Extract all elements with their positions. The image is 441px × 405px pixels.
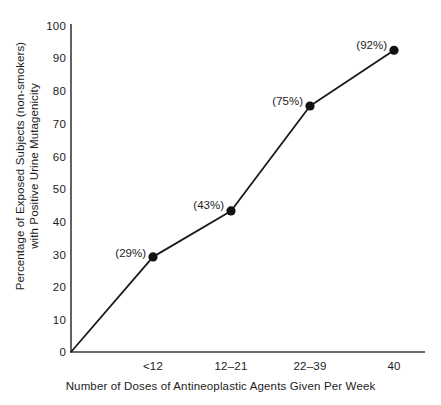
data-point-marker[interactable] — [389, 46, 398, 55]
data-point-label-92: (92%) — [356, 39, 387, 51]
data-series-group — [71, 46, 399, 352]
data-point-label-29: (29%) — [115, 247, 146, 259]
series-line — [71, 50, 394, 352]
y-axis-title-line1: Percentage of Exposed Subjects (non-smok… — [14, 42, 26, 291]
y-tick-label-10: 10 — [40, 314, 66, 326]
y-tick-label-0: 0 — [40, 346, 66, 358]
data-point-label-43: (43%) — [193, 199, 224, 211]
x-tick-label-lt12: <12 — [143, 360, 163, 372]
y-tick-label-60: 60 — [40, 151, 66, 163]
x-tick-label-22-39: 22–39 — [294, 360, 327, 372]
y-tick-label-80: 80 — [40, 85, 66, 97]
y-axis-title-line2: with Positive Urine Mutagenicity — [27, 41, 41, 291]
data-point-label-75: (75%) — [272, 95, 303, 107]
data-point-marker[interactable] — [148, 252, 157, 261]
x-tick-label-12-21: 12–21 — [215, 360, 248, 372]
x-tick-label-40: 40 — [387, 360, 400, 372]
y-axis-title: Percentage of Exposed Subjects (non-smok… — [13, 41, 41, 291]
y-tick-label-100: 100 — [40, 20, 66, 32]
y-tick-label-50: 50 — [40, 183, 66, 195]
chart-container: 100 90 80 70 60 50 40 30 20 10 0 <12 12–… — [0, 0, 441, 405]
data-point-marker[interactable] — [305, 101, 314, 110]
x-axis-title: Number of Doses of Antineoplastic Agents… — [0, 380, 441, 392]
y-tick-label-90: 90 — [40, 52, 66, 64]
data-point-marker[interactable] — [226, 206, 235, 215]
y-tick-label-30: 30 — [40, 249, 66, 261]
y-tick-label-20: 20 — [40, 281, 66, 293]
y-tick-label-70: 70 — [40, 118, 66, 130]
y-tick-label-40: 40 — [40, 216, 66, 228]
